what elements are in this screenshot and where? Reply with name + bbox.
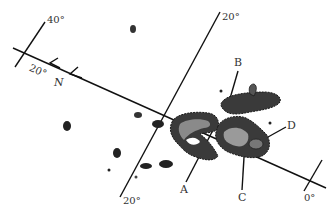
sunspot-b-tail bbox=[249, 84, 256, 96]
small-spot bbox=[152, 120, 164, 128]
small-spot bbox=[108, 169, 111, 172]
label-40-deg: 40° bbox=[47, 15, 65, 25]
small-spot bbox=[130, 25, 136, 33]
small-spot bbox=[113, 148, 121, 158]
meridian-0-line bbox=[304, 160, 322, 191]
meridian-20-line bbox=[120, 12, 220, 197]
small-spot bbox=[159, 160, 173, 168]
label-20-deg-bottom: 20° bbox=[123, 196, 141, 206]
arrow-head-2 bbox=[70, 67, 82, 78]
label-a: A bbox=[180, 185, 188, 195]
sunspot-d-core bbox=[249, 139, 263, 149]
sunspot-diagram bbox=[0, 0, 336, 213]
label-d: D bbox=[287, 121, 296, 131]
label-0-deg: 0° bbox=[304, 193, 315, 203]
small-spot bbox=[63, 121, 71, 131]
sunspot-b bbox=[221, 92, 280, 114]
label-b: B bbox=[234, 58, 242, 68]
small-spot bbox=[135, 176, 138, 179]
label-20-deg-top: 20° bbox=[222, 12, 240, 22]
small-spot bbox=[220, 90, 223, 93]
small-spot bbox=[269, 122, 272, 125]
label-c: C bbox=[238, 193, 246, 203]
small-spot bbox=[134, 112, 142, 118]
label-north: N bbox=[54, 78, 64, 88]
small-spot bbox=[140, 163, 152, 169]
